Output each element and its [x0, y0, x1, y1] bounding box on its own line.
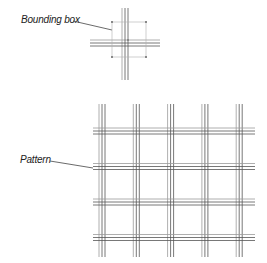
- center-point-handle: [127, 39, 129, 41]
- bounding-box-handle: [111, 21, 113, 23]
- bounding-box-leader: [73, 21, 112, 30]
- pattern-grid: [93, 104, 255, 257]
- diagram-canvas: [0, 0, 267, 263]
- tile-motif: [90, 8, 160, 80]
- bounding-box-handle: [111, 56, 113, 58]
- pattern-leader: [50, 161, 93, 168]
- bounding-box-handle: [145, 21, 147, 23]
- bounding-box-handle: [145, 56, 147, 58]
